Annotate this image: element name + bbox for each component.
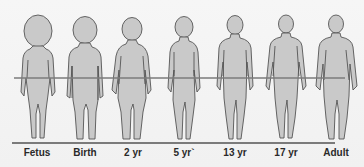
label-5yr: 5 yr` [173, 147, 194, 158]
label-birth: Birth [73, 147, 96, 158]
figures-illustration [0, 0, 364, 167]
label-17yr: 17 yr [274, 147, 297, 158]
figure-fetus [21, 15, 55, 138]
body-proportions-diagram: Fetus Birth 2 yr 5 yr` 13 yr 17 yr Adult [0, 0, 364, 167]
figure-17yr [266, 15, 306, 138]
figure-adult [316, 15, 357, 139]
label-2yr: 2 yr [124, 147, 142, 158]
label-fetus: Fetus [24, 147, 51, 158]
label-adult: Adult [323, 147, 349, 158]
label-13yr: 13 yr [223, 147, 246, 158]
